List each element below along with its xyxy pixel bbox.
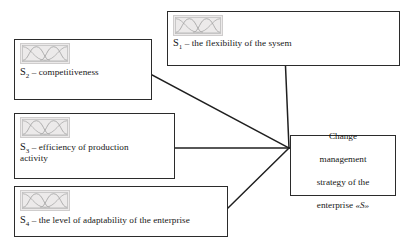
diagram-canvas: S1 – the flexibility of the sysem S2 – c… <box>0 0 412 249</box>
connector-s1-to-target <box>286 66 290 148</box>
node-s1-content: S1 – the flexibility of the sysem <box>168 12 399 65</box>
node-s2-competitiveness[interactable]: S2 – competitiveness <box>14 39 152 100</box>
fuzzy-membership-function-chart-icon <box>173 15 223 36</box>
node-target-content: Change management strategy of the enterp… <box>291 136 395 195</box>
fuzzy-membership-function-chart-icon <box>20 117 70 138</box>
node-s4-text: – the level of adaptability of the enter… <box>29 215 189 225</box>
node-s1-text: – the flexibility of the sysem <box>182 38 291 48</box>
node-s1-symbol: S1 <box>173 37 182 48</box>
connector-s4-to-target <box>228 148 289 208</box>
node-s3-content: S3 – efficiency of production activity <box>15 114 174 178</box>
node-target-line1: Change <box>329 131 357 141</box>
node-s2-symbol: S2 <box>20 66 29 77</box>
node-target-line3: strategy of the <box>317 177 370 187</box>
node-s1-label: S1 – the flexibility of the sysem <box>173 37 395 49</box>
fuzzy-membership-function-chart-icon <box>20 190 70 211</box>
node-target-line4-prefix: enterprise <box>317 200 356 210</box>
node-target-label: Change management strategy of the enterp… <box>317 119 370 212</box>
node-s1-flexibility[interactable]: S1 – the flexibility of the sysem <box>167 11 400 66</box>
node-s3-label: S3 – efficiency of production activity <box>20 141 170 164</box>
node-s2-label: S2 – competitiveness <box>20 66 147 78</box>
node-s4-adaptability[interactable]: S4 – the level of adaptability of the en… <box>14 186 228 237</box>
node-s2-text: – competitiveness <box>29 67 98 77</box>
node-s4-symbol: S4 <box>20 214 29 225</box>
node-target-line2: management <box>320 154 367 164</box>
node-s4-label: S4 – the level of adaptability of the en… <box>20 214 223 226</box>
fuzzy-membership-function-chart-icon <box>20 43 70 64</box>
node-s3-text: – efficiency of production activity <box>20 142 129 163</box>
node-change-management-strategy[interactable]: Change management strategy of the enterp… <box>290 135 396 196</box>
node-s3-symbol: S3 <box>20 141 29 152</box>
node-s2-content: S2 – competitiveness <box>15 40 151 99</box>
node-target-symbol: «S» <box>355 200 369 210</box>
node-s4-content: S4 – the level of adaptability of the en… <box>15 187 227 236</box>
node-s3-efficiency[interactable]: S3 – efficiency of production activity <box>14 113 175 179</box>
